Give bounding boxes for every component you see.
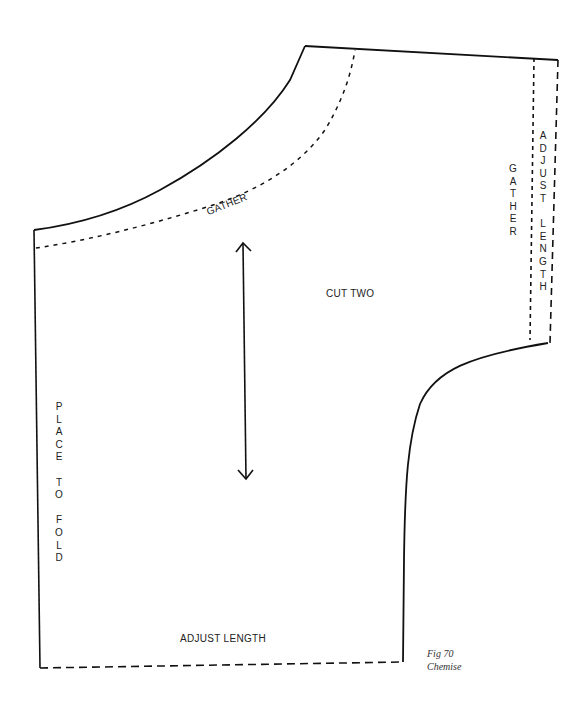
vertical-letter: L (537, 218, 549, 231)
grainline-arrow-icon (236, 243, 253, 479)
side-seam-armhole (403, 343, 548, 662)
vertical-letter: T (507, 188, 519, 201)
vertical-letter: A (537, 130, 549, 143)
figure-number: Fig 70 (427, 647, 461, 660)
vertical-letter: A (53, 426, 65, 439)
figure-caption: Fig 70 Chemise (427, 647, 461, 673)
gather-side-label: GATHER (507, 163, 519, 239)
vertical-letter: E (53, 451, 65, 464)
sleeve-gather-line (530, 58, 534, 340)
vertical-letter (53, 502, 65, 515)
vertical-letter: T (537, 269, 549, 282)
adjust-length-side-label: ADJUST LENGTH (537, 130, 549, 294)
adjust-length-bottom-label: ADJUST LENGTH (180, 633, 266, 644)
neck-gather-line (36, 50, 355, 248)
vertical-letter: P (53, 401, 65, 414)
neckline-curve (34, 46, 305, 230)
vertical-letter: C (53, 439, 65, 452)
shoulder-line (305, 46, 558, 60)
vertical-letter: F (53, 514, 65, 527)
vertical-letter: T (537, 193, 549, 206)
vertical-letter: H (507, 201, 519, 214)
vertical-letter: T (53, 477, 65, 490)
place-to-fold-label: PLACE TO FOLD (53, 401, 65, 565)
vertical-letter: D (537, 143, 549, 156)
vertical-letter: S (537, 180, 549, 193)
vertical-letter: O (53, 489, 65, 502)
vertical-letter: G (507, 163, 519, 176)
figure-title: Chemise (427, 660, 461, 673)
hem-adjust-line (40, 662, 403, 668)
vertical-letter (53, 464, 65, 477)
cut-two-label: CUT TWO (326, 288, 374, 299)
vertical-letter: L (53, 414, 65, 427)
vertical-letter (537, 206, 549, 219)
fold-edge (34, 230, 40, 668)
vertical-letter: G (537, 256, 549, 269)
vertical-letter: H (537, 281, 549, 294)
vertical-letter: A (507, 176, 519, 189)
sleeve-adjust-line (550, 60, 558, 343)
vertical-letter: N (537, 243, 549, 256)
vertical-letter: D (53, 552, 65, 565)
vertical-letter: J (537, 155, 549, 168)
vertical-letter: E (537, 231, 549, 244)
pattern-piece-outline (0, 0, 588, 706)
vertical-letter: R (507, 226, 519, 239)
vertical-letter: E (507, 213, 519, 226)
vertical-letter: L (53, 540, 65, 553)
vertical-letter: U (537, 168, 549, 181)
vertical-letter: O (53, 527, 65, 540)
